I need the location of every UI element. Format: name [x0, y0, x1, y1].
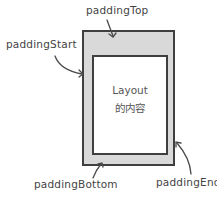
arrow-bottom-icon: [93, 164, 101, 178]
arrows: [0, 0, 217, 200]
arrow-start-icon: [55, 56, 82, 74]
arrow-end-icon: [177, 143, 191, 174]
arrow-top-icon: [107, 20, 113, 36]
